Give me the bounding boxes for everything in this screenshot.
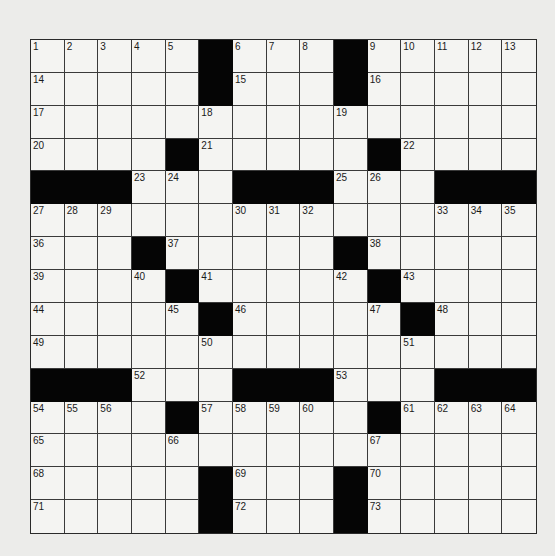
- grid-cell[interactable]: [267, 336, 301, 369]
- grid-cell[interactable]: [166, 336, 200, 369]
- grid-cell[interactable]: 33: [435, 204, 469, 237]
- grid-cell[interactable]: 46: [233, 303, 267, 336]
- grid-cell[interactable]: 36: [31, 237, 65, 270]
- grid-cell[interactable]: 59: [267, 402, 301, 435]
- grid-cell[interactable]: 57: [199, 402, 233, 435]
- grid-cell[interactable]: [267, 106, 301, 139]
- grid-cell[interactable]: [166, 369, 200, 402]
- grid-cell[interactable]: 71: [31, 500, 65, 533]
- grid-cell[interactable]: [469, 106, 503, 139]
- grid-cell[interactable]: [334, 402, 368, 435]
- grid-cell[interactable]: [502, 237, 536, 270]
- grid-cell[interactable]: [233, 270, 267, 303]
- grid-cell[interactable]: [368, 204, 402, 237]
- grid-cell[interactable]: [469, 434, 503, 467]
- grid-cell[interactable]: [435, 106, 469, 139]
- grid-cell[interactable]: [300, 434, 334, 467]
- grid-cell[interactable]: 55: [65, 402, 99, 435]
- grid-cell[interactable]: 35: [502, 204, 536, 237]
- grid-cell[interactable]: [435, 467, 469, 500]
- grid-cell[interactable]: [368, 369, 402, 402]
- grid-cell[interactable]: [435, 73, 469, 106]
- grid-cell[interactable]: [300, 106, 334, 139]
- grid-cell[interactable]: 9: [368, 40, 402, 73]
- grid-cell[interactable]: [334, 139, 368, 172]
- grid-cell[interactable]: [469, 500, 503, 533]
- grid-cell[interactable]: [401, 500, 435, 533]
- grid-cell[interactable]: 37: [166, 237, 200, 270]
- grid-cell[interactable]: 43: [401, 270, 435, 303]
- grid-cell[interactable]: [401, 171, 435, 204]
- grid-cell[interactable]: [166, 500, 200, 533]
- grid-cell[interactable]: [435, 237, 469, 270]
- grid-cell[interactable]: [469, 336, 503, 369]
- grid-cell[interactable]: 18: [199, 106, 233, 139]
- grid-cell[interactable]: 6: [233, 40, 267, 73]
- grid-cell[interactable]: [233, 139, 267, 172]
- grid-cell[interactable]: [267, 237, 301, 270]
- grid-cell[interactable]: 70: [368, 467, 402, 500]
- grid-cell[interactable]: [300, 270, 334, 303]
- grid-cell[interactable]: [132, 204, 166, 237]
- grid-cell[interactable]: [401, 106, 435, 139]
- grid-cell[interactable]: 50: [199, 336, 233, 369]
- grid-cell[interactable]: [65, 434, 99, 467]
- grid-cell[interactable]: [132, 500, 166, 533]
- grid-cell[interactable]: [199, 171, 233, 204]
- grid-cell[interactable]: 67: [368, 434, 402, 467]
- grid-cell[interactable]: [435, 336, 469, 369]
- grid-cell[interactable]: [435, 500, 469, 533]
- grid-cell[interactable]: [502, 500, 536, 533]
- grid-cell[interactable]: [401, 434, 435, 467]
- grid-cell[interactable]: [401, 73, 435, 106]
- grid-cell[interactable]: [166, 106, 200, 139]
- grid-cell[interactable]: [132, 106, 166, 139]
- grid-cell[interactable]: 1: [31, 40, 65, 73]
- grid-cell[interactable]: 39: [31, 270, 65, 303]
- grid-cell[interactable]: [469, 139, 503, 172]
- grid-cell[interactable]: [199, 237, 233, 270]
- grid-cell[interactable]: [132, 139, 166, 172]
- grid-cell[interactable]: [502, 139, 536, 172]
- grid-cell[interactable]: [166, 204, 200, 237]
- grid-cell[interactable]: [98, 139, 132, 172]
- grid-cell[interactable]: 28: [65, 204, 99, 237]
- grid-cell[interactable]: 30: [233, 204, 267, 237]
- grid-cell[interactable]: [166, 467, 200, 500]
- grid-cell[interactable]: [267, 73, 301, 106]
- grid-cell[interactable]: [300, 303, 334, 336]
- grid-cell[interactable]: [65, 467, 99, 500]
- grid-cell[interactable]: 62: [435, 402, 469, 435]
- grid-cell[interactable]: [502, 73, 536, 106]
- grid-cell[interactable]: 25: [334, 171, 368, 204]
- grid-cell[interactable]: [368, 336, 402, 369]
- grid-cell[interactable]: [65, 270, 99, 303]
- grid-cell[interactable]: 41: [199, 270, 233, 303]
- grid-cell[interactable]: 40: [132, 270, 166, 303]
- grid-cell[interactable]: [267, 139, 301, 172]
- grid-cell[interactable]: [334, 303, 368, 336]
- grid-cell[interactable]: 52: [132, 369, 166, 402]
- grid-cell[interactable]: [368, 106, 402, 139]
- grid-cell[interactable]: 8: [300, 40, 334, 73]
- grid-cell[interactable]: [98, 303, 132, 336]
- grid-cell[interactable]: [300, 467, 334, 500]
- grid-cell[interactable]: [98, 237, 132, 270]
- grid-cell[interactable]: 13: [502, 40, 536, 73]
- grid-cell[interactable]: 11: [435, 40, 469, 73]
- grid-cell[interactable]: 45: [166, 303, 200, 336]
- grid-cell[interactable]: 4: [132, 40, 166, 73]
- grid-cell[interactable]: [267, 303, 301, 336]
- grid-cell[interactable]: 68: [31, 467, 65, 500]
- grid-cell[interactable]: [132, 73, 166, 106]
- grid-cell[interactable]: [435, 270, 469, 303]
- grid-cell[interactable]: [65, 73, 99, 106]
- grid-cell[interactable]: [300, 500, 334, 533]
- grid-cell[interactable]: [300, 139, 334, 172]
- grid-cell[interactable]: 49: [31, 336, 65, 369]
- grid-cell[interactable]: 10: [401, 40, 435, 73]
- grid-cell[interactable]: [132, 402, 166, 435]
- grid-cell[interactable]: [65, 139, 99, 172]
- grid-cell[interactable]: [132, 467, 166, 500]
- grid-cell[interactable]: [132, 303, 166, 336]
